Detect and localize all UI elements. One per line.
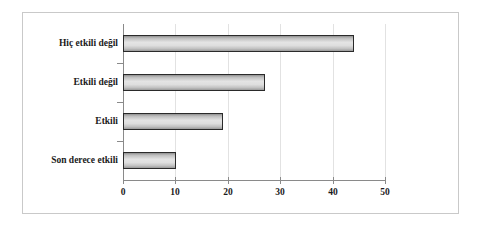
value-axis-line xyxy=(123,180,386,181)
category-label-etkili-degil: Etkili değil xyxy=(73,77,118,88)
category-label-son-derece-etkili: Son derece etkili xyxy=(51,155,118,166)
x-tick-10 xyxy=(175,177,176,184)
bar-son-derece-etkili[interactable] xyxy=(123,152,176,169)
bar-hic-etkili-degil[interactable] xyxy=(123,35,354,52)
category-label-etkili: Etkili xyxy=(95,116,118,127)
x-tick-label-10: 10 xyxy=(163,187,187,198)
x-tick-40 xyxy=(333,177,334,184)
bar-etkili-degil[interactable] xyxy=(123,74,265,91)
x-tick-50 xyxy=(385,177,386,184)
x-tick-label-20: 20 xyxy=(216,187,240,198)
x-tick-label-40: 40 xyxy=(321,187,345,198)
x-tick-0 xyxy=(123,177,124,184)
x-tick-label-0: 0 xyxy=(111,187,135,198)
x-tick-label-30: 30 xyxy=(268,187,292,198)
gridline-50 xyxy=(385,24,386,180)
x-tick-label-50: 50 xyxy=(373,187,397,198)
x-tick-20 xyxy=(228,177,229,184)
category-axis-labels: Hiç etkili değil Etkili değil Etkili Son… xyxy=(0,0,118,232)
bar-etkili[interactable] xyxy=(123,113,223,130)
category-label-hic-etkili-degil: Hiç etkili değil xyxy=(59,38,118,49)
chart-figure: Hiç etkili değil Etkili değil Etkili Son… xyxy=(0,0,482,232)
x-tick-30 xyxy=(280,177,281,184)
